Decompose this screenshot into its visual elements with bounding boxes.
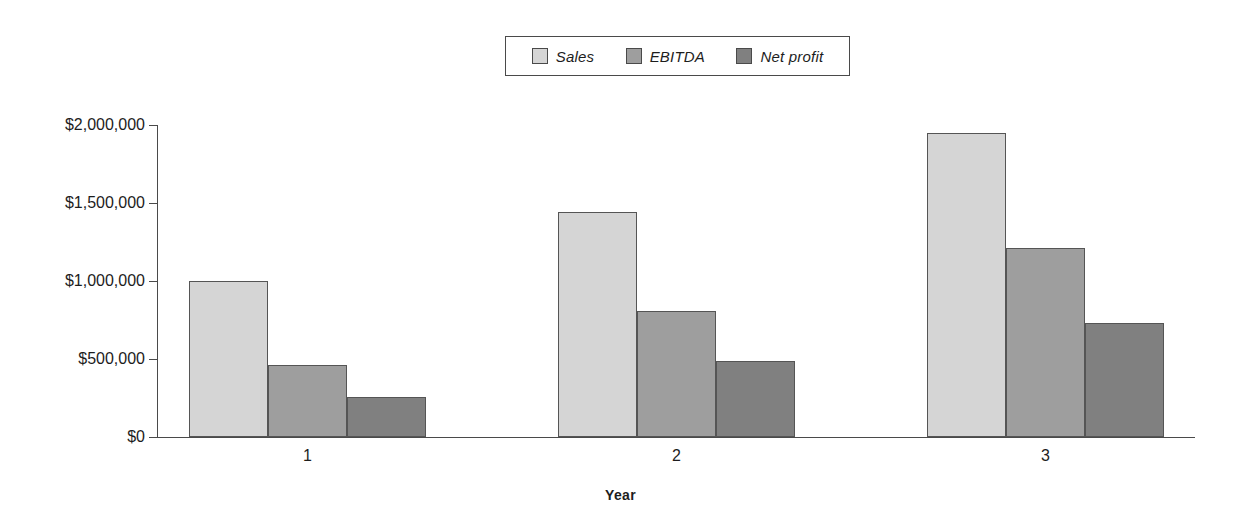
bar-sales-year-3 — [927, 133, 1006, 437]
x-axis-tick-label: 3 — [1041, 447, 1050, 465]
x-axis-title: Year — [0, 487, 1241, 503]
y-axis-tick — [149, 281, 157, 282]
x-axis-line — [157, 437, 1195, 438]
x-axis-tick-label: 2 — [672, 447, 681, 465]
y-axis-tick-label: $0 — [12, 428, 145, 446]
chart-legend: Sales EBITDA Net profit — [505, 36, 850, 76]
y-axis-tick-label: $2,000,000 — [12, 116, 145, 134]
y-axis-tick — [149, 359, 157, 360]
bar-sales-year-1 — [189, 281, 268, 437]
y-axis-tick — [149, 203, 157, 204]
legend-entry-sales: Sales — [532, 48, 595, 65]
x-axis-tick-label: 1 — [303, 447, 312, 465]
y-axis-line — [157, 125, 158, 437]
plot-area: $0$500,000$1,000,000$1,500,000$2,000,000… — [157, 125, 1195, 437]
legend-swatch-sales — [532, 48, 548, 64]
bar-ebitda-year-3 — [1006, 248, 1085, 437]
bar-ebitda-year-1 — [268, 365, 347, 437]
legend-label-net-profit: Net profit — [760, 48, 823, 65]
bar-sales-year-2 — [558, 212, 637, 437]
legend-label-ebitda: EBITDA — [650, 48, 705, 65]
legend-entry-ebitda: EBITDA — [626, 48, 705, 65]
y-axis-tick — [149, 125, 157, 126]
bar-ebitda-year-2 — [637, 311, 716, 437]
bar-net-profit-year-1 — [347, 397, 426, 437]
y-axis-tick-label: $1,500,000 — [12, 194, 145, 212]
legend-entry-net-profit: Net profit — [736, 48, 823, 65]
y-axis-tick-label: $1,000,000 — [12, 272, 145, 290]
bar-net-profit-year-3 — [1085, 323, 1164, 437]
y-axis-tick-label: $500,000 — [12, 350, 145, 368]
legend-label-sales: Sales — [556, 48, 595, 65]
legend-swatch-net-profit — [736, 48, 752, 64]
bar-net-profit-year-2 — [716, 361, 795, 437]
y-axis-tick — [149, 437, 157, 438]
legend-swatch-ebitda — [626, 48, 642, 64]
